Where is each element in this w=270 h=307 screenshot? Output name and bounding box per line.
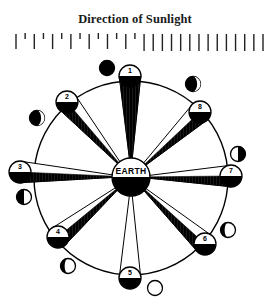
sunlight-direction-ticks (16, 33, 263, 51)
earth: EARTH (112, 158, 150, 196)
moon-phases-diagram: EARTH 12345678 (0, 0, 270, 307)
moon-position-1: 1 (119, 65, 141, 87)
last-quarter-icon (231, 147, 246, 162)
moon-dark-half (47, 237, 69, 248)
moon-position-6: 6 (194, 233, 216, 255)
moon-position-4: 4 (47, 226, 69, 248)
moon-position-7: 7 (220, 165, 242, 187)
waxing-gibbous-icon (61, 259, 76, 274)
waxing-crescent-icon (30, 111, 45, 126)
sight-line-5 (119, 183, 141, 278)
first-quarter-icon (17, 190, 32, 205)
moon-position-label: 1 (128, 67, 132, 74)
moon-position-5: 5 (119, 267, 141, 289)
sight-line-shadow-7 (137, 176, 231, 187)
moon-position-label: 4 (56, 228, 60, 235)
moon-position-label: 2 (65, 93, 69, 100)
moon-position-3: 3 (9, 161, 31, 183)
moon-dark-half (119, 278, 141, 289)
waning-crescent-icon (186, 77, 201, 92)
moon-position-8: 8 (189, 101, 211, 123)
moon-dark-half (194, 244, 216, 255)
moon-position-2: 2 (56, 91, 78, 113)
earth-night-side (112, 177, 150, 196)
full-moon-icon (148, 281, 163, 296)
moon-position-label: 3 (18, 163, 22, 170)
moon-position-label: 5 (128, 269, 132, 276)
moon-position-label: 6 (203, 235, 207, 242)
moon-position-label: 8 (198, 103, 202, 110)
moon-position-label: 7 (229, 167, 233, 174)
sight-line-shadow-1 (119, 76, 141, 171)
new-moon-icon (100, 61, 115, 76)
earth-label: EARTH (116, 166, 147, 176)
waning-gibbous-icon (221, 223, 236, 238)
